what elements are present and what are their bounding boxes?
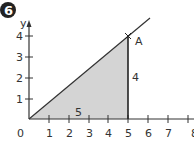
x-tick-label: 4: [105, 127, 112, 140]
y-tick-label: 3: [16, 51, 23, 64]
y-axis-label: y: [20, 17, 27, 30]
y-tick-label: 2: [16, 72, 23, 85]
y-tick-label: 1: [16, 93, 23, 106]
origin-label: 0: [17, 127, 24, 140]
y-axis-arrow-icon: [27, 20, 32, 27]
y-tick-label: 4: [16, 30, 23, 43]
x-tick-label: 2: [66, 127, 73, 140]
x-tick-label: 7: [165, 127, 172, 140]
problem-number-badge: 6: [0, 2, 16, 18]
x-tick-label: 5: [125, 127, 132, 140]
x-tick-label: 8: [191, 127, 194, 140]
problem-number: 6: [4, 3, 13, 18]
vertical-side-label: 4: [132, 71, 139, 84]
horizontal-side-label: 5: [75, 106, 82, 119]
x-tick-label: 6: [145, 127, 152, 140]
point-a-label: A: [135, 35, 143, 48]
x-tick-label: 1: [46, 127, 53, 140]
x-tick-label: 3: [86, 127, 93, 140]
diagram-canvas: 6 0 1 2 3 4 5 6 7 8 1 2 3 4 y: [0, 0, 194, 142]
